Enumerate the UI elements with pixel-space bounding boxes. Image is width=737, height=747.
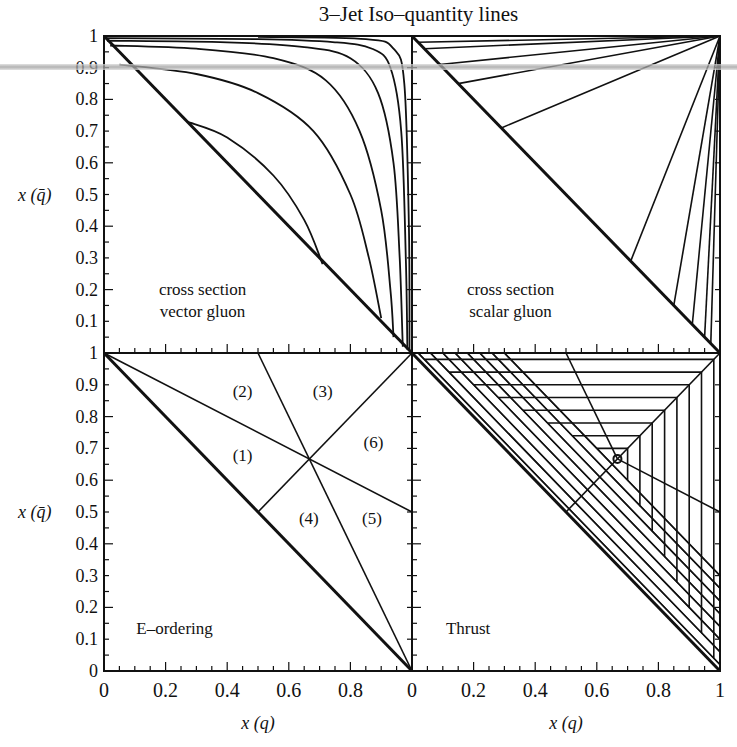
x-tick-label: 0.8 (338, 679, 363, 701)
y-tick-label: 0.5 (76, 185, 99, 205)
ordering-line-l3 (566, 353, 720, 512)
y-tick-label: 0.7 (76, 438, 99, 458)
region-label-2: (2) (233, 382, 253, 401)
x-tick-label: 0 (99, 679, 109, 701)
x-tick-label: 0.6 (276, 679, 301, 701)
x-tick-label: 0.6 (584, 679, 609, 701)
x-tick-label: 0.4 (215, 679, 240, 701)
chart-canvas: cross sectionvector gluoncross sectionsc… (0, 0, 737, 747)
panel-label-bottom-right-1: Thrust (446, 619, 491, 638)
panel-label-top-left-2: vector gluon (160, 302, 246, 321)
y-tick-label: 0.6 (76, 153, 99, 173)
x-axis-label-right: x (q) (548, 713, 582, 734)
region-boundary-l3 (258, 353, 412, 512)
region-label-5: (5) (362, 509, 382, 528)
y-tick-labels-bottom-left: 0.10.20.30.40.50.60.70.80.910x (q̄) (17, 343, 98, 681)
y-tick-label: 1 (89, 26, 98, 46)
panel-label-top-left-1: cross section (159, 280, 247, 299)
x-tick-label: 0.2 (461, 679, 486, 701)
y-tick-label: 0.2 (76, 597, 99, 617)
y-tick-label: 0.1 (76, 311, 99, 331)
y-tick-label: 0.3 (76, 248, 99, 268)
iso-line-s3 (501, 36, 720, 128)
iso-line-s2 (458, 36, 720, 84)
y-tick-label: 0.6 (76, 470, 99, 490)
y-tick-label: 0.8 (76, 407, 99, 427)
panel-label-top-right-1: cross section (467, 280, 555, 299)
panel-top-right: cross sectionscalar gluon (412, 36, 720, 353)
y-tick-label: 0.4 (76, 534, 99, 554)
region-boundary-l2 (258, 353, 412, 671)
y-tick-label: 0 (89, 661, 98, 681)
panel-top-left: cross sectionvector gluon (104, 36, 412, 353)
y-tick-label: 0.8 (76, 89, 99, 109)
y-tick-label: 1 (89, 343, 98, 363)
iso-line-s4 (424, 36, 720, 49)
iso-curve-c6 (258, 37, 410, 350)
y-axis-label: x (q̄) (17, 502, 51, 523)
y-tick-label: 0.9 (76, 375, 99, 395)
x-tick-labels: 00.20.40.60.800.20.40.60.81x (q)x (q) (99, 679, 725, 734)
panel-label-top-right-2: scalar gluon (469, 302, 552, 321)
x-tick-label: 0 (407, 679, 417, 701)
x-tick-label: 0.8 (646, 679, 671, 701)
y-tick-labels-top-left: 0.10.20.30.40.50.60.70.80.91x (q̄) (17, 26, 98, 331)
x-tick-label: 1 (715, 679, 725, 701)
region-label-4: (4) (299, 509, 319, 528)
y-tick-label: 0.2 (76, 280, 99, 300)
y-tick-label: 0.1 (76, 629, 99, 649)
y-tick-label: 0.5 (76, 502, 99, 522)
diagonal-boundary (104, 36, 412, 353)
x-axis-label-left: x (q) (240, 713, 274, 734)
region-label-1: (1) (233, 446, 253, 465)
scan-artifact-line (0, 64, 737, 70)
panel-bottom-right: Thrust (412, 353, 720, 671)
region-label-6: (6) (364, 433, 384, 452)
panel-bottom-left: (1)(2)(3)(4)(5)(6)E–ordering (104, 353, 412, 671)
x-tick-label: 0.4 (523, 679, 548, 701)
panel-label-bottom-left-1: E–ordering (136, 619, 213, 638)
region-label-3: (3) (313, 382, 333, 401)
y-axis-label: x (q̄) (17, 185, 51, 206)
y-tick-label: 0.3 (76, 566, 99, 586)
y-tick-label: 0.4 (76, 216, 99, 236)
x-tick-label: 0.2 (153, 679, 178, 701)
iso-curve-c3 (110, 46, 393, 338)
y-tick-label: 0.7 (76, 121, 99, 141)
